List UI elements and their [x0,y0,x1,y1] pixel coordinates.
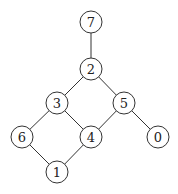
node-label: 4 [87,130,95,145]
node-layer: 72356401 [11,11,169,183]
node-3: 3 [46,92,68,114]
node-7: 7 [80,11,102,33]
node-1: 1 [46,161,68,183]
node-label: 6 [18,130,26,145]
node-label: 5 [120,96,128,111]
node-4: 4 [80,126,102,148]
node-2: 2 [80,58,102,80]
node-label: 7 [87,15,95,30]
node-label: 1 [53,165,61,180]
node-label: 0 [154,130,162,145]
graph-canvas: 72356401 [0,0,178,194]
node-label: 2 [87,62,95,77]
node-6: 6 [11,126,33,148]
node-0: 0 [147,126,169,148]
node-5: 5 [113,92,135,114]
node-label: 3 [53,96,61,111]
edge-layer [22,22,158,172]
